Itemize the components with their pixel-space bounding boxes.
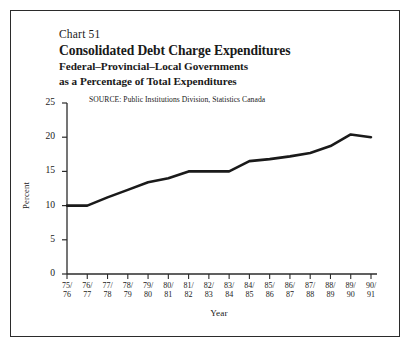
x-axis-tick-label: 90/91 [356,281,386,300]
y-axis-tick-label: 15 [29,164,55,175]
x-axis-title: Year [179,308,259,318]
y-axis-tick-label: 10 [29,199,55,210]
y-axis-tick-label: 0 [29,267,55,278]
chart-plot-area: Percent Year 051015202575/7676/7777/7878… [0,0,411,348]
y-axis-tick-label: 20 [29,130,55,141]
y-axis-tick-label: 25 [29,96,55,107]
y-axis-tick-label: 5 [29,233,55,244]
